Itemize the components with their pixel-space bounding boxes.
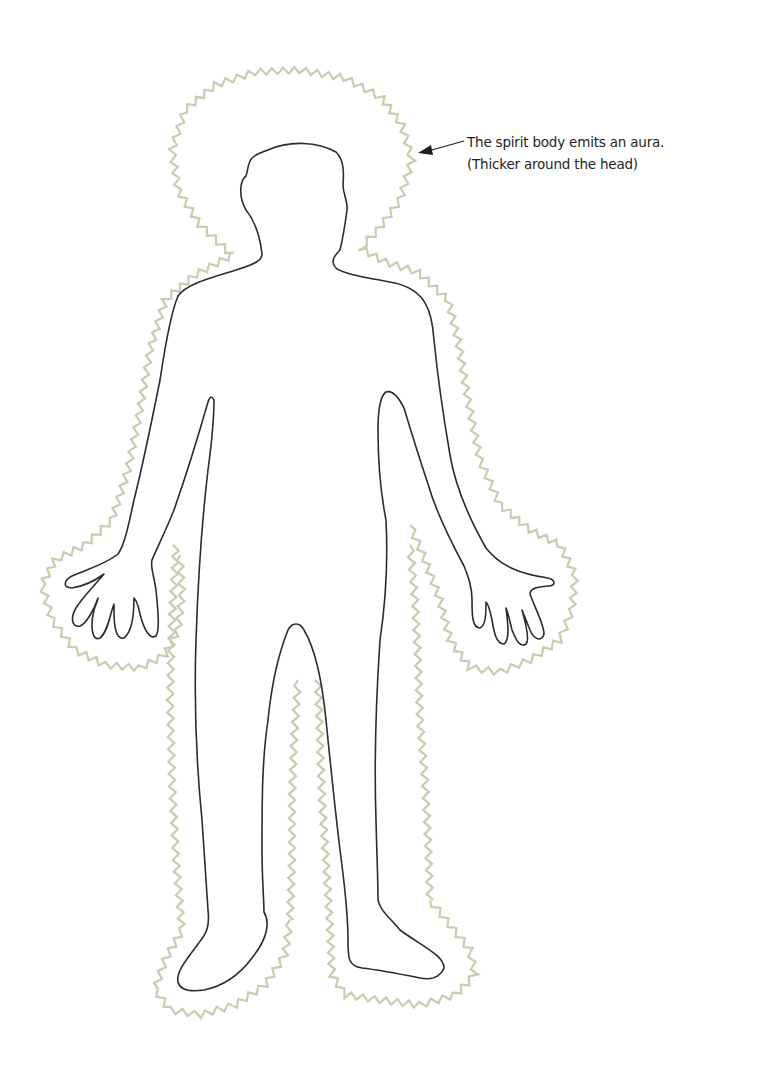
aura: [41, 67, 578, 1018]
aura-left-leg-outer: [154, 545, 292, 1018]
aura-left-arm: [41, 252, 231, 671]
aura-annotation: The spirit body emits an aura. (Thicker …: [467, 131, 664, 175]
arrow-shaft: [428, 141, 464, 151]
aura-right-leg-outer: [408, 545, 433, 900]
annotation-line-1: The spirit body emits an aura.: [467, 131, 664, 153]
annotation-line-2: (Thicker around the head): [467, 153, 664, 175]
aura-left-leg-inner: [287, 680, 300, 920]
body-outline: [65, 143, 554, 990]
arrow-head: [418, 145, 433, 155]
annotation-arrow: [418, 141, 464, 155]
